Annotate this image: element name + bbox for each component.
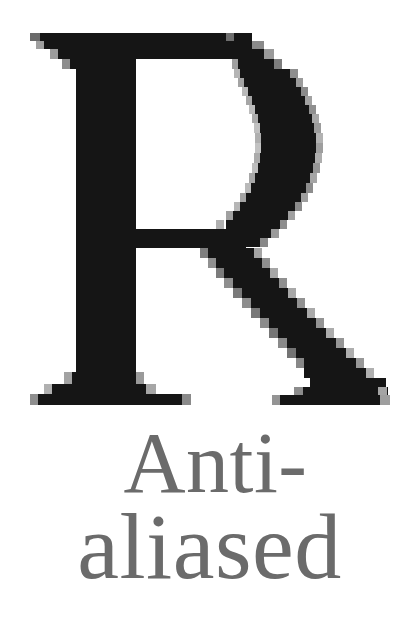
aliased-glyph-area [0, 0, 417, 420]
caption-line-1: Anti- [0, 424, 417, 503]
aliased-letter-r-icon [0, 0, 417, 420]
caption-line-2: aliased [0, 503, 417, 589]
typography-specimen-figure: Anti- aliased [0, 0, 417, 642]
caption-block: Anti- aliased [0, 424, 417, 590]
